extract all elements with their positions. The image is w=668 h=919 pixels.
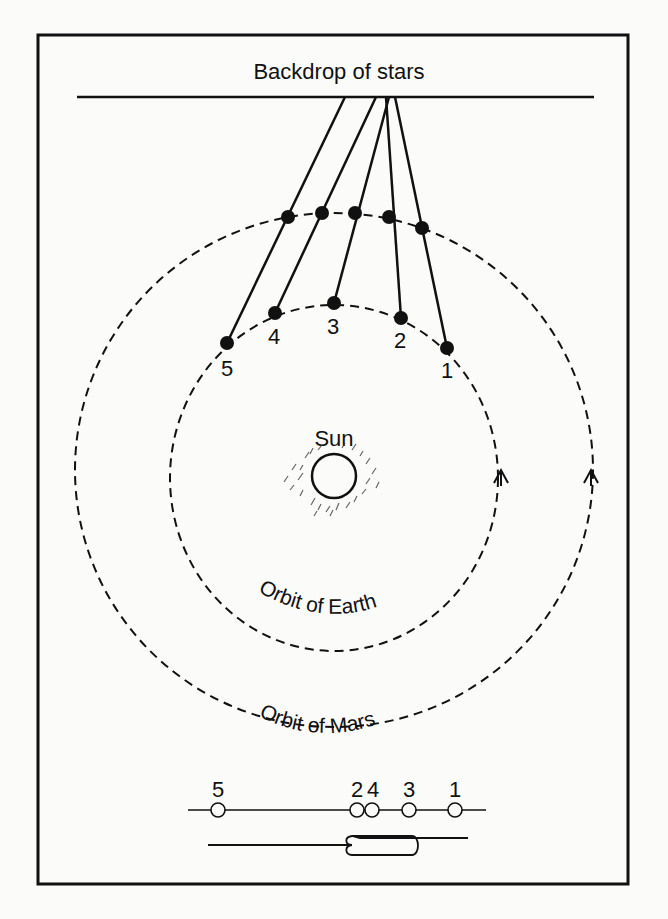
apparent-label-1: 1	[449, 777, 461, 802]
apparent-label-4: 4	[367, 777, 379, 802]
apparent-label-2: 2	[351, 777, 363, 802]
retrograde-loop-path	[208, 836, 468, 855]
earth-label-1: 1	[441, 358, 453, 383]
earth-label-4: 4	[268, 324, 280, 349]
mars-dot-2	[382, 210, 396, 224]
earth-label-5: 5	[221, 356, 233, 381]
sight-line-2	[386, 97, 401, 318]
apparent-label-5: 5	[212, 777, 224, 802]
apparent-label-3: 3	[403, 777, 415, 802]
earth-dot-3	[327, 296, 341, 310]
sight-lines	[227, 97, 447, 348]
mars-dot-4	[315, 206, 329, 220]
earth-dot-2	[394, 311, 408, 325]
apparent-marker-5	[211, 803, 225, 817]
earth-dot-1	[440, 341, 454, 355]
apparent-marker-3	[402, 803, 416, 817]
earth-label-3: 3	[327, 314, 339, 339]
sun-icon	[312, 454, 356, 498]
orbit-arrow-mars	[584, 470, 598, 486]
apparent-marker-1	[448, 803, 462, 817]
mars-orbit-label: Orbit of Mars	[257, 699, 378, 737]
backdrop-label: Backdrop of stars	[253, 59, 424, 84]
retrograde-motion-diagram: Backdrop of stars 5 4 3 2 1 Sun	[0, 0, 668, 919]
earth-orbit-label: Orbit of Earth	[256, 575, 379, 618]
mars-dot-5	[281, 210, 295, 224]
earth-dot-5	[220, 336, 234, 350]
apparent-marker-4	[365, 803, 379, 817]
apparent-marker-2	[350, 803, 364, 817]
mars-dot-3	[348, 206, 362, 220]
earth-label-2: 2	[394, 328, 406, 353]
mars-dot-1	[415, 221, 429, 235]
orbit-arrow-earth	[494, 470, 508, 486]
earth-dot-4	[268, 306, 282, 320]
